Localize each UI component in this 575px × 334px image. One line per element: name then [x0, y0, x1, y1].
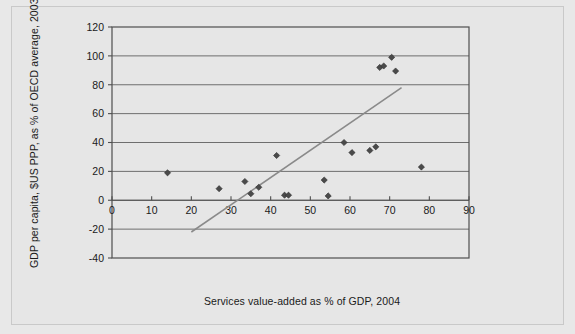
- x-tick-label: 70: [384, 204, 396, 216]
- scatter-chart: -40-20020406080100120 010203040506070809…: [12, 7, 565, 326]
- x-tick-label: 20: [185, 204, 197, 216]
- x-tick-label: 40: [265, 204, 277, 216]
- x-tick-label: 50: [304, 204, 316, 216]
- x-tick-label: 90: [463, 204, 475, 216]
- x-tick-label: 30: [225, 204, 237, 216]
- y-tick-label: -40: [89, 252, 104, 264]
- y-axis-tick-labels: -40-20020406080100120: [86, 21, 112, 264]
- x-tick-label: 10: [146, 204, 158, 216]
- x-tick-label: 80: [423, 204, 435, 216]
- y-tick-label: 40: [92, 136, 104, 148]
- y-tick-label: 80: [92, 79, 104, 91]
- y-tick-label: 0: [98, 194, 104, 206]
- chart-outer-frame: -40-20020406080100120 010203040506070809…: [11, 6, 564, 325]
- x-tick-label: 60: [344, 204, 356, 216]
- x-tick-label: 0: [109, 204, 115, 216]
- x-axis-title: Services value-added as % of GDP, 2004: [122, 295, 482, 307]
- y-tick-label: 120: [86, 21, 104, 33]
- figure-container: -40-20020406080100120 010203040506070809…: [0, 0, 575, 334]
- y-tick-label: 20: [92, 165, 104, 177]
- y-axis-title: GDP per capita, $US PPP, as % of OECD av…: [28, 38, 40, 268]
- y-tick-label: -20: [89, 223, 104, 235]
- y-tick-label: 60: [92, 107, 104, 119]
- y-tick-label: 100: [86, 50, 104, 62]
